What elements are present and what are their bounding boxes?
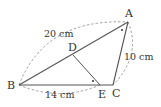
angle-dot-a [121,29,123,31]
point-label-a: A [124,7,134,20]
segment-de [73,55,100,85]
measure-label-ac: 10 cm [124,51,153,62]
measure-label-be: 14 cm [45,89,74,100]
measure-label-ab: 20 cm [44,28,73,39]
point-label-e: E [98,88,106,101]
point-label-d: D [68,41,77,54]
triangle-diagram: A B C D E 20 cm 10 cm 14 cm [0,0,161,107]
angle-dot-e [92,80,94,82]
point-label-b: B [7,79,15,92]
point-label-c: C [112,87,120,100]
